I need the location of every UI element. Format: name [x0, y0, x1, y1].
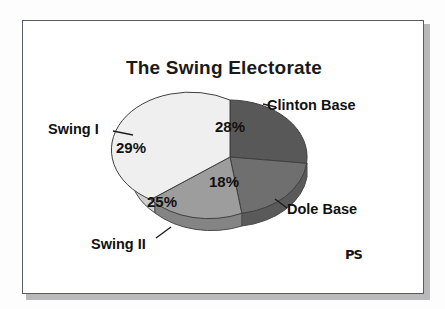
slide-frame: The Swing Electorate	[22, 20, 424, 294]
leader-line-swing-ii	[156, 227, 171, 238]
pie-value-label-clinton-base: 28%	[215, 118, 245, 135]
pie-category-label-swing-ii: Swing II	[91, 236, 146, 252]
slide-canvas: The Swing Electorate	[0, 0, 445, 309]
pie-category-label-dole-base: Dole Base	[287, 201, 357, 217]
pie-category-label-swing-i: Swing I	[48, 121, 99, 137]
pie-value-label-dole-base: 18%	[209, 173, 239, 190]
pie-category-label-clinton-base: Clinton Base	[267, 97, 356, 113]
pie-chart-svg	[23, 21, 425, 295]
pie-value-label-swing-i: 29%	[116, 139, 146, 156]
ps-watermark: PS	[345, 247, 362, 262]
pie-chart: 28% 18% 25% 29% Clinton Base Dole Base S…	[23, 21, 425, 295]
pie-value-label-swing-ii: 25%	[147, 193, 177, 210]
